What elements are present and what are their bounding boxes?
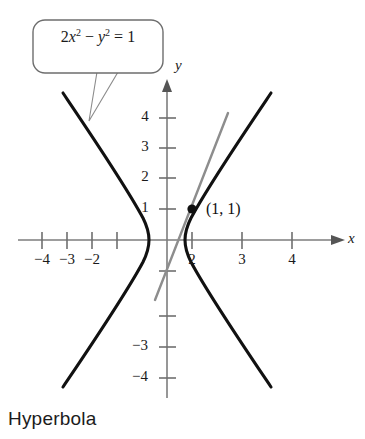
y-axis-label: y <box>175 57 182 74</box>
tangency-point-marker <box>187 204 196 213</box>
x-tick-label--2: −2 <box>78 251 106 268</box>
x-tick-label--4: −4 <box>28 251 56 268</box>
equation-coefficient: 2 <box>61 28 69 45</box>
y-axis-arrow-icon <box>162 79 172 92</box>
y-tick-label-4: 4 <box>136 108 154 125</box>
hyperbola-figure <box>0 0 365 439</box>
y-tick-label-2: 2 <box>136 168 154 185</box>
x-axis-arrow-icon <box>331 235 345 245</box>
x-axis-label: x <box>348 230 355 247</box>
equation-exponent-y: 2 <box>105 27 110 38</box>
equation-exponent-x: 2 <box>76 27 81 38</box>
y-tick-label-1: 1 <box>136 199 154 216</box>
x-tick-label-2: 2 <box>182 251 202 268</box>
y-tick-label-3: 3 <box>136 138 154 155</box>
callout-leader-pointer <box>89 72 118 121</box>
figure-caption: Hyperbola <box>8 408 96 430</box>
y-tick-label--3: −3 <box>126 337 154 354</box>
y-tick-label--4: −4 <box>126 368 154 385</box>
x-tick-label-3: 3 <box>232 251 252 268</box>
equation-minus-sign: − <box>85 28 94 45</box>
equation-callout-label: 2x2 − y2 = 1 <box>38 28 158 46</box>
x-tick-label--3: −3 <box>53 251 81 268</box>
equation-variable-x: x <box>69 28 76 45</box>
tangency-point-label: (1, 1) <box>206 200 241 218</box>
x-tick-label-4: 4 <box>282 251 302 268</box>
equation-equals-one: = 1 <box>114 28 135 45</box>
